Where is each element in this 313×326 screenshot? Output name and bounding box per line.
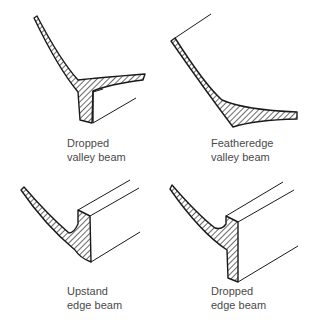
label-upstand-edge-beam: Upstand edge beam bbox=[67, 284, 122, 312]
dropped-valley-beam-drawing bbox=[34, 16, 145, 123]
upstand-edge-beam-drawing bbox=[21, 180, 140, 262]
label-line-2: edge beam bbox=[67, 298, 122, 312]
featheredge-valley-beam-drawing bbox=[171, 14, 297, 127]
beam-types-diagram: Dropped valley beam Featheredge valley b… bbox=[0, 0, 313, 326]
label-dropped-edge-beam: Dropped edge beam bbox=[211, 284, 266, 312]
label-line-1: Dropped bbox=[211, 284, 266, 298]
label-dropped-valley-beam: Dropped valley beam bbox=[67, 136, 126, 164]
label-line-2: edge beam bbox=[211, 298, 266, 312]
label-line-2: valley beam bbox=[67, 150, 126, 164]
dropped-edge-beam-drawing bbox=[170, 182, 298, 282]
label-line-1: Dropped bbox=[67, 136, 126, 150]
label-featheredge-valley-beam: Featheredge valley beam bbox=[211, 136, 273, 164]
label-line-2: valley beam bbox=[211, 150, 273, 164]
label-line-1: Featheredge bbox=[211, 136, 273, 150]
label-line-1: Upstand bbox=[67, 284, 122, 298]
